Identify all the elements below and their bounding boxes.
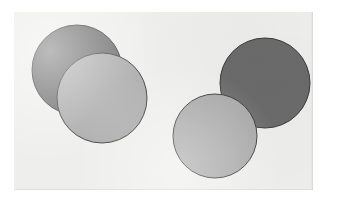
figure-root [0, 0, 339, 203]
circle-right-light [173, 94, 257, 178]
panel-right-edge [311, 12, 313, 190]
image-panel [14, 12, 313, 190]
panel-bottom-edge [14, 189, 313, 190]
shapes-canvas [14, 12, 313, 190]
circle-left-light [57, 53, 147, 143]
